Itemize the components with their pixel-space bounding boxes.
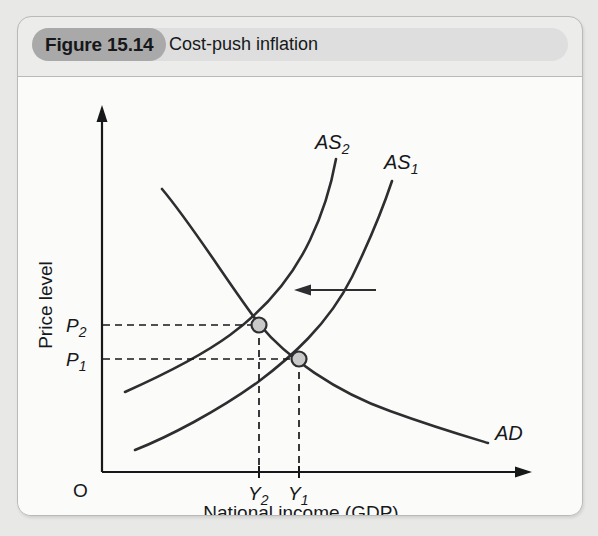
as2-label-subscript: 2 xyxy=(341,141,350,157)
equilibrium-point-2 xyxy=(252,318,267,333)
origin-label: O xyxy=(73,480,88,501)
figure-number-badge: Figure 15.14 xyxy=(32,28,166,61)
y-axis-title: Price level xyxy=(35,261,56,349)
equilibrium-point-1 xyxy=(292,352,307,367)
ad-label: AD xyxy=(494,422,523,444)
cost-push-inflation-chart: AS2 AS1 AD P2 P1 Y2 Y1 O Nation xyxy=(18,77,583,516)
figure-title: Cost-push inflation xyxy=(169,28,318,61)
plot-area: AS2 AS1 AD P2 P1 Y2 Y1 O Nation xyxy=(18,77,582,516)
as1-label-subscript: 1 xyxy=(411,161,419,177)
figure-header: Figure 15.14 Cost-push inflation xyxy=(18,17,582,77)
x-axis-title: National income (GDP) xyxy=(203,502,398,516)
figure-panel: Figure 15.14 Cost-push inflation xyxy=(17,16,583,516)
